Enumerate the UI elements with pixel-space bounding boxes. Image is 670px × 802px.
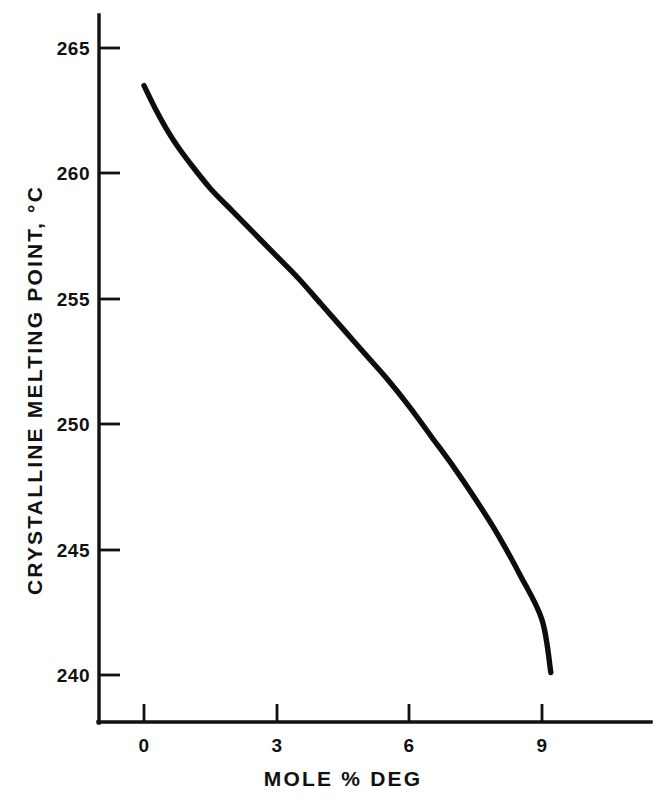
x-axis-title: MOLE % DEG bbox=[264, 767, 423, 790]
x-tick-label-0: 0 bbox=[138, 735, 149, 756]
chart-plot-area: 265 260 255 250 245 240 0 3 6 9 MOLE % D… bbox=[0, 0, 670, 802]
y-tick-label-250: 250 bbox=[57, 414, 90, 435]
y-tick-label-255: 255 bbox=[57, 289, 90, 310]
y-tick-label-240: 240 bbox=[57, 665, 90, 686]
y-tick-label-265: 265 bbox=[57, 38, 90, 59]
x-tick-label-6: 6 bbox=[403, 735, 414, 756]
x-tick-marks bbox=[144, 704, 542, 722]
y-tick-label-260: 260 bbox=[57, 163, 90, 184]
y-tick-labels: 265 260 255 250 245 240 bbox=[57, 38, 90, 686]
x-tick-label-9: 9 bbox=[536, 735, 547, 756]
chart-figure: 265 260 255 250 245 240 0 3 6 9 MOLE % D… bbox=[0, 0, 670, 802]
x-tick-labels: 0 3 6 9 bbox=[138, 735, 547, 756]
x-tick-label-3: 3 bbox=[271, 735, 282, 756]
data-series-crystalline-melting-point bbox=[144, 86, 551, 673]
y-tick-marks bbox=[99, 48, 120, 675]
y-tick-label-245: 245 bbox=[57, 540, 90, 561]
y-axis-title: CRYSTALLINE MELTING POINT, °C bbox=[23, 185, 46, 595]
